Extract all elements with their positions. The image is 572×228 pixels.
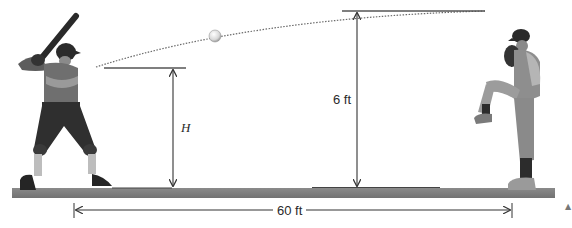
pitcher-figure [474,29,540,190]
six-ft-label: 6 ft [333,92,351,107]
sixty-ft-label: 60 ft [273,203,306,218]
ground [12,188,555,198]
baseball-icon [209,30,221,42]
baseball-diagram [0,0,572,228]
height-h-label: H [181,120,190,136]
corner-mark-icon: ▲ [565,202,571,211]
batter-figure [18,16,112,190]
ball-trajectory [96,11,485,67]
